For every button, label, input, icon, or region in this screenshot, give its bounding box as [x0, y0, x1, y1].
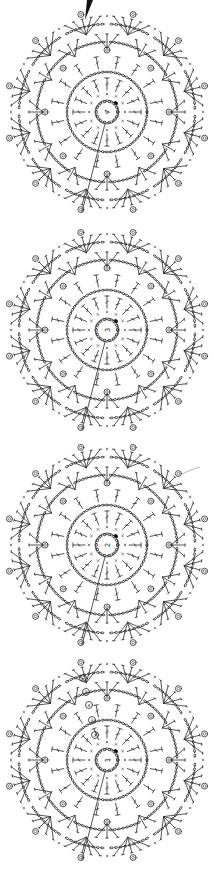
round-marker-label: 2 — [94, 733, 97, 738]
motif-number-label: 2 — [104, 543, 112, 547]
round-marker-label: 5 — [85, 690, 88, 695]
round-marker-label: 4 — [88, 703, 91, 708]
center-ring: 1 — [88, 741, 126, 779]
motif-number-label: 4 — [103, 108, 112, 116]
motif-3: 2 — [6, 444, 207, 645]
round-marker-label: 6 — [82, 676, 85, 681]
motif-2: 3 — [6, 229, 207, 430]
crochet-chart-diagram: 432123456 — [0, 0, 214, 873]
round-marker-label: 3 — [91, 718, 94, 723]
chart-canvas: 432123456 — [0, 0, 214, 873]
yarn-tail — [182, 467, 200, 474]
center-ring: 4 — [88, 93, 126, 131]
center-ring: 2 — [88, 526, 126, 564]
motif-number-label: 1 — [104, 758, 112, 762]
center-ring: 3 — [88, 311, 126, 349]
motif-number-label: 3 — [104, 328, 112, 332]
motif-4: 123456 — [6, 659, 207, 860]
motif-1: 4 — [6, 11, 207, 212]
